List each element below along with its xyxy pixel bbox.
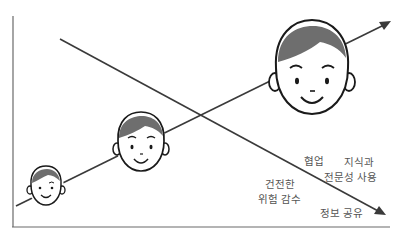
medium-child-face-icon	[113, 112, 169, 171]
large-child-face-icon	[269, 20, 355, 114]
label-knowledge-line2: 전문성 사용	[324, 170, 377, 185]
diagram-canvas	[0, 0, 403, 240]
label-risk-line1: 건전한	[258, 177, 301, 192]
label-collaboration: 협업	[304, 154, 324, 169]
label-knowledge-line1: 지식과	[340, 155, 377, 170]
label-info-sharing: 정보 공유	[320, 206, 363, 221]
label-risk-taking: 건전한 위험 감수	[258, 177, 301, 207]
label-risk-line2: 위험 감수	[258, 192, 301, 207]
label-knowledge: 지식과 전문성 사용	[340, 155, 377, 185]
small-child-face-icon	[27, 166, 65, 205]
